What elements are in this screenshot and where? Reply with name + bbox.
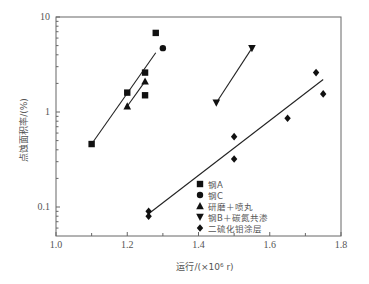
square-marker-icon [197, 181, 203, 187]
plot-border [56, 17, 341, 236]
square-marker-icon [142, 69, 148, 75]
diamond-marker-icon [145, 212, 151, 220]
diamond-marker-icon [284, 114, 290, 122]
square-marker-icon [153, 30, 159, 36]
square-marker-icon [124, 89, 130, 95]
triangle-down-marker-icon [213, 100, 221, 107]
x-axis-title: 运行/(×10⁶ r) [176, 261, 233, 272]
diamond-marker-icon [231, 133, 237, 141]
circle-marker-icon [160, 45, 166, 51]
fit-line [149, 79, 324, 213]
legend-label: 研磨＋喷丸 [208, 202, 253, 212]
legend-label: 钢C [208, 191, 223, 201]
triangle-down-marker-icon [248, 45, 256, 52]
circle-marker-icon [197, 192, 203, 198]
square-marker-icon [88, 141, 94, 147]
diamond-marker-icon [320, 90, 326, 98]
legend-label: 钢B＋碳氮共渗 [208, 213, 268, 223]
y-tick-label: 0.1 [38, 201, 51, 212]
legend-label: 二硫化钼涂层 [208, 224, 262, 234]
x-tick-label: 1.8 [335, 239, 348, 250]
pitting-area-chart: 1.01.21.41.61.8 1010.1 钢A钢C研磨＋喷丸钢B＋碳氮共渗二… [0, 0, 369, 284]
y-tick-label: 1 [45, 106, 50, 117]
triangle-down-marker-icon [196, 214, 204, 221]
x-tick-label: 1.2 [121, 239, 134, 250]
triangle-up-marker-icon [141, 77, 149, 84]
diamond-marker-icon [231, 155, 237, 163]
plot-frame [56, 17, 341, 236]
fit-line [216, 48, 252, 103]
x-axis: 1.01.21.41.61.8 [50, 232, 348, 250]
x-tick-label: 1.6 [264, 239, 277, 250]
legend: 钢A钢C研磨＋喷丸钢B＋碳氮共渗二硫化钼涂层 [196, 180, 268, 234]
y-axis-title: 点蚀面积率/(%) [18, 98, 29, 162]
legend-label: 钢A [208, 180, 223, 190]
y-tick-label: 10 [40, 11, 50, 22]
x-tick-label: 1.0 [50, 239, 63, 250]
square-marker-icon [142, 92, 148, 98]
diamond-marker-icon [313, 69, 319, 77]
triangle-up-marker-icon [196, 202, 204, 209]
x-tick-label: 1.4 [192, 239, 205, 250]
diamond-marker-icon [197, 224, 203, 232]
y-axis: 1010.1 [38, 11, 61, 228]
